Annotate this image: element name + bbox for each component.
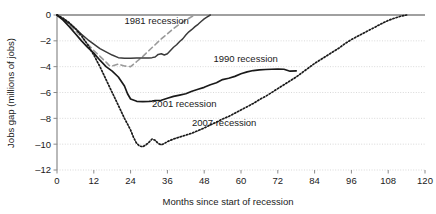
- jobs-gap-line-chart: 0–2–4–6–8–10–1201224364860728496108120 1…: [0, 0, 436, 214]
- tick-labels-group: 0–2–4–6–8–10–1201224364860728496108120: [35, 9, 433, 186]
- y-tick-label-0: 0: [46, 9, 51, 20]
- x-tick-label-108: 108: [380, 175, 396, 186]
- x-axis-title: Months since start of recession: [163, 196, 294, 207]
- x-tick-label-96: 96: [346, 175, 357, 186]
- y-tick-label-2: –2: [40, 35, 51, 46]
- series-label-1981-recession: 1981 recession: [124, 15, 188, 26]
- x-tick-label-120: 120: [417, 175, 433, 186]
- y-axis-title: Jobs gap (millions of jobs): [5, 38, 16, 148]
- x-tick-label-36: 36: [162, 175, 173, 186]
- x-tick-label-0: 0: [54, 175, 59, 186]
- x-tick-label-60: 60: [236, 175, 247, 186]
- y-tick-label-12: –12: [35, 164, 51, 175]
- series-label-2007-recession: 2007 recession: [192, 117, 256, 128]
- y-tick-label-8: –8: [40, 113, 51, 124]
- x-tick-label-72: 72: [273, 175, 284, 186]
- y-tick-label-6: –6: [40, 87, 51, 98]
- x-tick-label-24: 24: [125, 175, 136, 186]
- series-labels-group: 1981 recession1990 recession2001 recessi…: [124, 15, 277, 128]
- y-tick-label-10: –10: [35, 139, 51, 150]
- y-tick-label-4: –4: [40, 61, 51, 72]
- x-tick-label-12: 12: [89, 175, 100, 186]
- axes-group: [54, 15, 426, 174]
- chart-container: 0–2–4–6–8–10–1201224364860728496108120 1…: [0, 0, 436, 214]
- series-label-2001-recession: 2001 recession: [152, 98, 216, 109]
- series-label-1990-recession: 1990 recession: [213, 53, 277, 64]
- x-tick-label-48: 48: [199, 175, 210, 186]
- x-tick-label-84: 84: [309, 175, 320, 186]
